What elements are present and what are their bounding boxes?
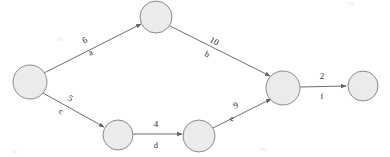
source-node[interactable] [13, 65, 47, 99]
edge-weight-c: 5 [66, 93, 75, 104]
graph-canvas: 6a10b5c4d9e2f [0, 0, 390, 157]
edge-weight-f: 2 [320, 71, 325, 81]
graph-edge-f[interactable] [300, 86, 346, 87]
upper-node[interactable] [140, 1, 172, 33]
edge-weight-e: 9 [231, 99, 240, 110]
graph-edge-e[interactable] [213, 99, 271, 128]
merge-node[interactable] [266, 71, 300, 105]
edge-id-f: f [320, 91, 323, 101]
lower-middle-node[interactable] [183, 120, 215, 152]
sink-node[interactable] [348, 71, 378, 101]
edge-id-e: e [228, 113, 236, 124]
graph-diagram: 6a10b5c4d9e2f [0, 0, 390, 157]
edge-id-d: d [154, 140, 159, 150]
edge-id-b: b [203, 49, 212, 60]
edge-weight-a: 6 [80, 34, 89, 45]
edge-weight-d: 4 [154, 119, 159, 129]
graph-edge-b[interactable] [170, 26, 270, 76]
lower-left-node[interactable] [103, 120, 133, 150]
edges-layer [43, 24, 346, 134]
edge-id-c: c [57, 106, 65, 117]
graph-edge-c[interactable] [43, 93, 104, 127]
graph-edge-a[interactable] [44, 24, 141, 73]
